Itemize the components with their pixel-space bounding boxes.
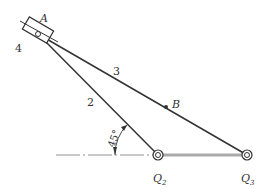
point-b [164, 105, 168, 109]
pivot-o2 [153, 150, 163, 160]
label-3: 3 [113, 65, 120, 78]
label-o3: Q3 [241, 172, 255, 187]
label-2: 2 [87, 96, 94, 109]
label-a: A [39, 12, 48, 25]
link-2 [38, 34, 158, 155]
label-o2: Q2 [153, 172, 167, 187]
link-3 [38, 34, 247, 155]
pivot-o3 [242, 150, 252, 160]
label-b: B [171, 98, 180, 111]
slider-block-4 [22, 17, 53, 43]
angle-arrow-icon [121, 125, 127, 131]
label-4: 4 [15, 42, 22, 55]
label-angle: 45° [106, 128, 122, 148]
joint-a [36, 32, 41, 37]
mechanism-diagram: A 4 3 2 B 45° Q2 Q3 [0, 0, 271, 195]
